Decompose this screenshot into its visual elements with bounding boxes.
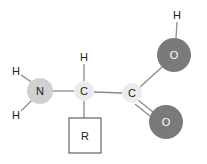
carbon-carboxyl-label: C bbox=[128, 87, 136, 99]
atom-carbon-alpha: C bbox=[74, 81, 94, 101]
hydrogen-alpha-label: H bbox=[80, 51, 88, 63]
hydrogen-n-bottom-label: H bbox=[12, 109, 20, 121]
atom-nitrogen: N bbox=[27, 78, 53, 104]
molecule-canvas: N H H C H R C O H O bbox=[0, 0, 207, 164]
r-group: R bbox=[69, 118, 101, 153]
bond-c-o-carbonyl-1 bbox=[138, 100, 153, 112]
bond-n-h-bottom bbox=[21, 99, 33, 111]
bond-c-o-hydroxyl bbox=[140, 67, 162, 87]
oxygen-carbonyl-label: O bbox=[162, 116, 171, 128]
r-group-label: R bbox=[81, 130, 89, 142]
hydrogen-n-top-label: H bbox=[12, 65, 20, 77]
oxygen-hydroxyl-label: O bbox=[170, 49, 179, 61]
bond-c-o-carbonyl-2 bbox=[135, 104, 150, 116]
bonds bbox=[21, 22, 177, 118]
nitrogen-label: N bbox=[36, 85, 44, 97]
carbon-alpha-label: C bbox=[80, 85, 88, 97]
bond-c-alpha-c-carboxyl bbox=[94, 92, 122, 93]
hydrogen-hydroxyl-label: H bbox=[173, 9, 181, 21]
amino-acid-diagram: N H H C H R C O H O bbox=[0, 0, 207, 164]
atom-carbon-carboxyl: C bbox=[122, 83, 142, 103]
atom-oxygen-carbonyl: O bbox=[149, 105, 183, 139]
atom-oxygen-hydroxyl: O bbox=[157, 38, 191, 72]
bond-o-h-hydroxyl bbox=[176, 22, 177, 38]
